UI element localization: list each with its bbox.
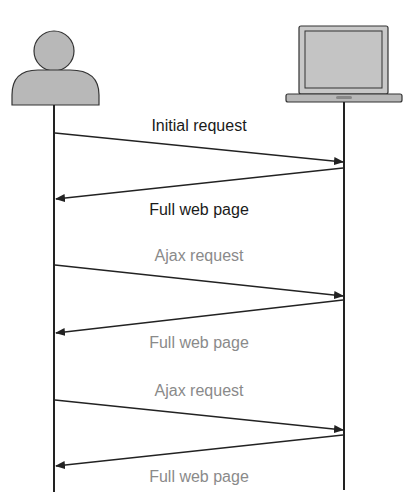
message-arrows	[55, 133, 343, 466]
user-icon	[12, 31, 99, 105]
message-label-full-page-2: Full web page	[149, 334, 249, 352]
message-label-ajax-request-2: Ajax request	[155, 382, 244, 400]
message-label-full-page-3: Full web page	[149, 468, 249, 486]
laptop-icon	[286, 26, 402, 102]
message-label-full-page-1: Full web page	[149, 201, 249, 219]
message-label-initial-request: Initial request	[151, 117, 246, 135]
message-label-ajax-request-1: Ajax request	[155, 247, 244, 265]
